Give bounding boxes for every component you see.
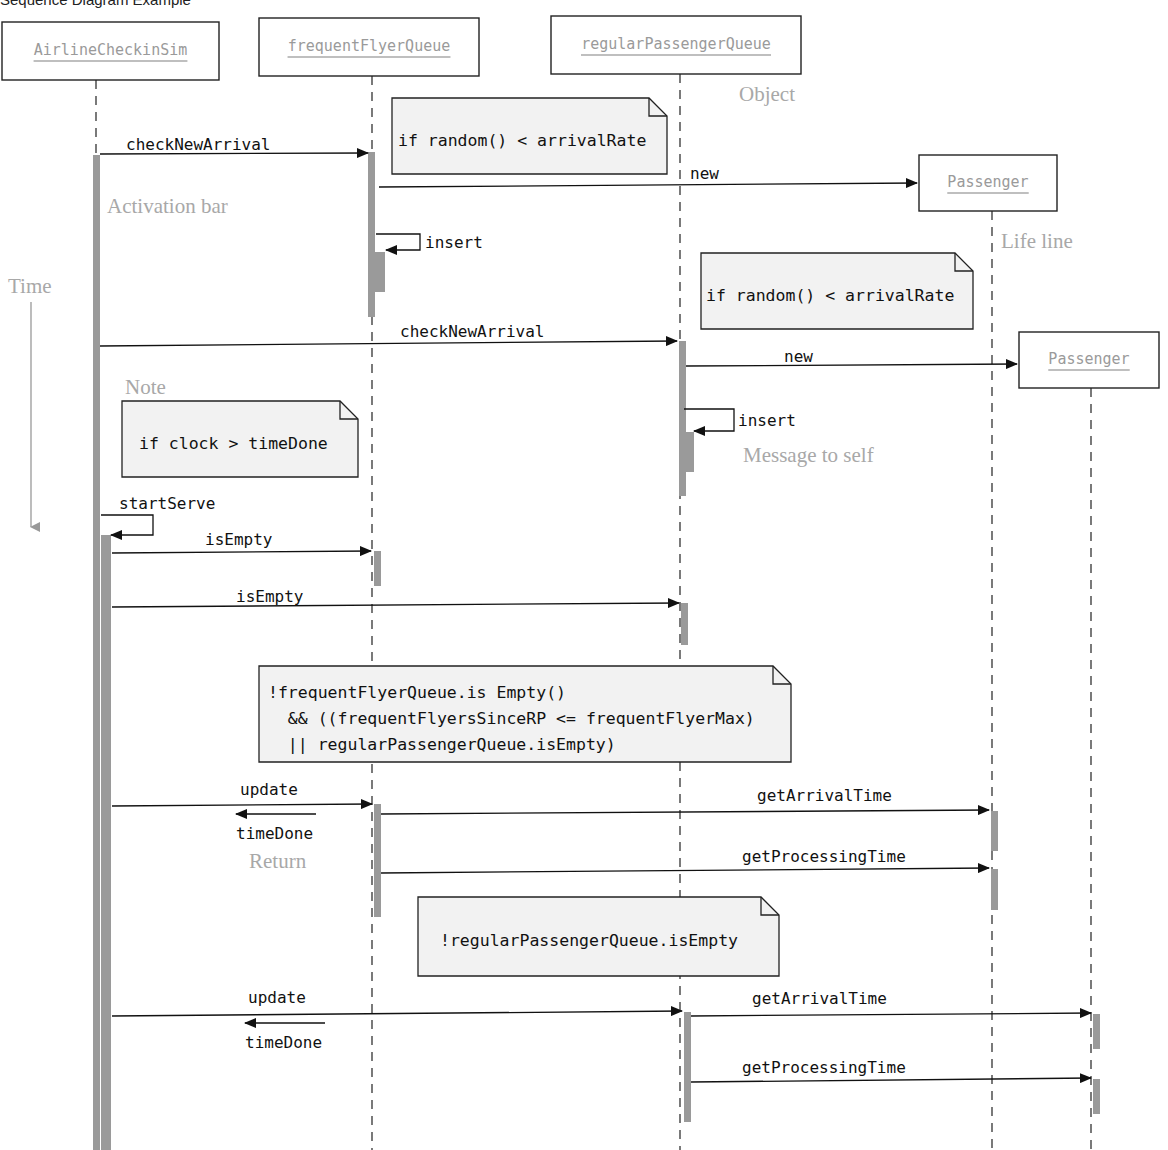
note: !frequentFlyerQueue.is Empty() && ((freq… <box>259 666 791 762</box>
activation-bar <box>368 152 375 317</box>
object-sim: AirlineCheckinSim <box>2 22 219 80</box>
message-isEmpty: isEmpty <box>112 530 371 553</box>
object-label: frequentFlyerQueue <box>288 37 451 55</box>
message-label: new <box>690 164 719 183</box>
annotation-message-to-self: Message to self <box>743 443 874 467</box>
return-label: timeDone <box>236 824 313 843</box>
object-label: Passenger <box>947 173 1028 191</box>
self-message-startServe: startServe <box>101 494 215 535</box>
note: if random() < arrivalRate <box>392 98 667 174</box>
message-getArrivalTime: getArrivalTime <box>381 786 989 814</box>
return-label: timeDone <box>245 1033 322 1052</box>
annotation-note: Note <box>125 375 166 399</box>
note-text: if random() < arrivalRate <box>398 131 646 150</box>
activation-bar <box>375 252 385 292</box>
message-label: isEmpty <box>236 587 304 606</box>
self-message-label: insert <box>425 233 483 252</box>
message-label: new <box>784 347 813 366</box>
annotation-return: Return <box>249 849 307 873</box>
message-label: isEmpty <box>205 530 273 549</box>
message-getProcessingTime: getProcessingTime <box>381 847 989 873</box>
object-label: regularPassengerQueue <box>581 35 771 53</box>
object-p2: Passenger <box>1019 332 1159 388</box>
message-isEmpty: isEmpty <box>112 587 679 607</box>
object-p1: Passenger <box>919 155 1057 211</box>
note-text: !frequentFlyerQueue.is Empty() <box>268 683 566 702</box>
message-checkNewArrival: checkNewArrival <box>100 135 368 154</box>
note-text: if random() < arrivalRate <box>706 286 954 305</box>
activation-bar <box>681 603 688 645</box>
message-label: getArrivalTime <box>757 786 892 805</box>
note-text: !regularPassengerQueue.isEmpty <box>440 931 738 950</box>
message-getProcessingTime: getProcessingTime <box>691 1058 1091 1082</box>
message-label: getProcessingTime <box>742 847 906 866</box>
annotation-activation-bar: Activation bar <box>107 194 228 218</box>
activation-bar <box>679 341 686 496</box>
note: if clock > timeDone <box>122 401 358 477</box>
message-label: update <box>248 988 306 1007</box>
note-text: && ((frequentFlyersSinceRP <= frequentFl… <box>268 709 755 728</box>
annotation-object: Object <box>739 82 795 106</box>
message-label: update <box>240 780 298 799</box>
message-label: checkNewArrival <box>126 135 271 154</box>
activation-bar <box>1093 1079 1100 1114</box>
activation-bar <box>991 869 998 910</box>
note-text: || regularPassengerQueue.isEmpty) <box>268 735 616 754</box>
self-message-label: insert <box>738 411 796 430</box>
self-message-insert: insert <box>684 409 796 431</box>
object-rpq: regularPassengerQueue <box>551 16 801 74</box>
activation-bar <box>686 432 694 472</box>
message-checkNewArrival: checkNewArrival <box>100 322 677 346</box>
return-message: timeDone <box>245 1023 325 1052</box>
activation-bar <box>991 811 998 851</box>
message-update: update <box>112 780 372 806</box>
message-label: getProcessingTime <box>742 1058 906 1077</box>
message-update: update <box>112 988 682 1016</box>
activation-bar <box>374 804 381 917</box>
lifelines <box>96 74 1091 1150</box>
self-message-insert: insert <box>376 233 483 252</box>
object-label: AirlineCheckinSim <box>34 41 188 59</box>
object-ffq: frequentFlyerQueue <box>259 18 479 76</box>
sequence-diagram: AirlineCheckinSimfrequentFlyerQueueregul… <box>0 0 1168 1150</box>
return-message: timeDone <box>236 814 316 843</box>
activation-bar <box>374 551 381 586</box>
note: if random() < arrivalRate <box>701 253 973 329</box>
activation-bar <box>684 1012 691 1122</box>
annotation-life-line: Life line <box>1001 229 1073 253</box>
message-getArrivalTime: getArrivalTime <box>691 989 1091 1016</box>
activation-bar <box>1093 1014 1100 1049</box>
note-text: if clock > timeDone <box>139 434 328 453</box>
activation-bar <box>93 155 100 1150</box>
message-new: new <box>686 347 1017 366</box>
message-label: getArrivalTime <box>752 989 887 1008</box>
message-label: checkNewArrival <box>400 322 545 341</box>
annotation-time: Time <box>8 274 52 298</box>
self-message-label: startServe <box>119 494 215 513</box>
note: !regularPassengerQueue.isEmpty <box>418 897 779 976</box>
activation-bar <box>101 535 111 1150</box>
object-label: Passenger <box>1048 350 1129 368</box>
